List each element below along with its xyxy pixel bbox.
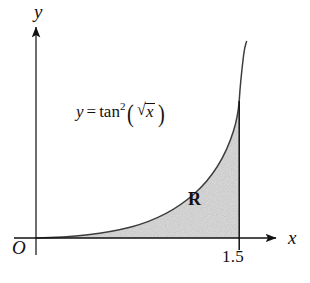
- figure-canvas: y x O 1.5 R y=tan2(√x): [0, 0, 310, 283]
- equation-function-name: tan: [99, 102, 120, 121]
- x-axis-label: x: [288, 228, 296, 247]
- equation-exponent: 2: [120, 100, 126, 112]
- curve-equation: y=tan2(√x): [76, 101, 166, 120]
- radical-sign-icon: √: [137, 101, 146, 118]
- equation-radical: √x: [137, 103, 155, 120]
- graph-svg: [0, 0, 310, 283]
- equation-radicand: x: [146, 102, 154, 121]
- radical-vinculum: [145, 103, 155, 104]
- x-tick-label-1-5: 1.5: [222, 248, 244, 265]
- shaded-region-R: [36, 101, 239, 238]
- region-label-R: R: [188, 190, 201, 208]
- equation-lhs: y: [76, 102, 84, 121]
- y-axis-label: y: [34, 2, 42, 21]
- origin-label: O: [12, 238, 26, 257]
- equation-equals: =: [84, 102, 100, 121]
